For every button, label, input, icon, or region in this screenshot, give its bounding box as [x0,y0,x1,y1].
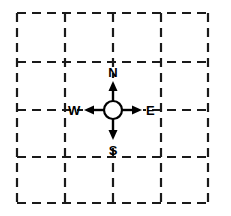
compass-label-north: N [108,65,117,80]
compass-center-circle [104,101,122,119]
compass-label-east: E [146,103,155,118]
diagram-canvas: N E S W [0,0,231,216]
compass-grid-diagram: N E S W [0,0,231,216]
compass-label-west: W [68,103,81,118]
compass-label-south: S [109,143,118,158]
